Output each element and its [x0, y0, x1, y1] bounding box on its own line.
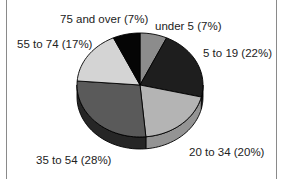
- pie-top-faces: [77, 33, 203, 137]
- label-5-to-19: 5 to 19 (22%): [203, 48, 272, 60]
- label-75-and-over: 75 and over (7%): [60, 14, 148, 26]
- pie-slice-35-to-54: [77, 81, 146, 137]
- label-55-to-74: 55 to 74 (17%): [17, 39, 92, 51]
- label-35-to-54: 35 to 54 (28%): [36, 155, 111, 167]
- label-under-5: under 5 (7%): [155, 21, 221, 33]
- label-20-to-34: 20 to 34 (20%): [189, 147, 264, 159]
